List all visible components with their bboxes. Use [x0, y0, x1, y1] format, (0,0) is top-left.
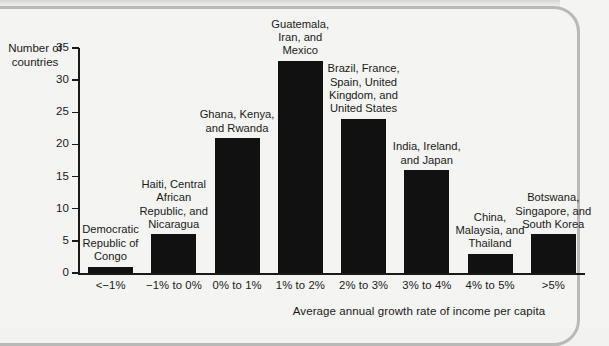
bar — [151, 234, 196, 273]
y-tick-mark — [72, 79, 79, 81]
plot-area: Democratic Republic of CongoHaiti, Centr… — [79, 48, 585, 273]
bar — [468, 254, 513, 273]
bar-group: Haiti, Central African Republic, and Nic… — [142, 48, 205, 273]
y-tick-label: 15 — [47, 170, 69, 182]
bar-annotation-label: Guatemala, Iran, and Mexico — [261, 18, 340, 58]
bar — [531, 234, 576, 273]
bar-group: Brazil, France, Spain, United Kingdom, a… — [332, 48, 395, 273]
y-tick-mark — [72, 112, 79, 114]
y-tick-mark — [72, 144, 79, 146]
bar-annotation-label: Botswana, Singapore, and South Korea — [514, 191, 593, 231]
bar-annotation-label: Ghana, Kenya, and Rwanda — [198, 108, 277, 135]
x-axis-line — [78, 273, 585, 275]
y-tick-label: 30 — [47, 73, 69, 85]
bar-group: India, Ireland, and Japan — [395, 48, 458, 273]
y-tick-label: 5 — [47, 234, 69, 246]
bar — [341, 119, 386, 273]
bar — [88, 267, 133, 273]
y-tick-label: 0 — [47, 266, 69, 278]
bar-annotation-label: India, Ireland, and Japan — [387, 140, 466, 167]
bar-group: Democratic Republic of Congo — [79, 48, 142, 273]
x-tick-label: >5% — [514, 279, 592, 291]
bar — [215, 138, 260, 273]
y-tick-mark — [72, 176, 79, 178]
y-tick-label: 35 — [47, 41, 69, 53]
y-tick-label: 20 — [47, 137, 69, 149]
x-axis-title: Average annual growth rate of income per… — [239, 305, 599, 317]
y-tick-label: 10 — [47, 202, 69, 214]
y-tick-label: 25 — [47, 105, 69, 117]
bar-annotation-label: Brazil, France, Spain, United Kingdom, a… — [324, 62, 403, 116]
y-axis-title-line2: countries — [2, 56, 68, 70]
y-tick-mark — [72, 47, 79, 49]
bar — [404, 170, 449, 273]
bar-group: China, Malaysia, and Thailand — [459, 48, 522, 273]
y-tick-mark — [72, 208, 79, 210]
bar-group: Guatemala, Iran, and Mexico — [269, 48, 332, 273]
bar-annotation-label: Haiti, Central African Republic, and Nic… — [134, 178, 213, 232]
y-tick-mark — [72, 272, 79, 274]
bar — [278, 61, 323, 273]
bar-group: Botswana, Singapore, and South Korea — [522, 48, 585, 273]
bar-group: Ghana, Kenya, and Rwanda — [206, 48, 269, 273]
